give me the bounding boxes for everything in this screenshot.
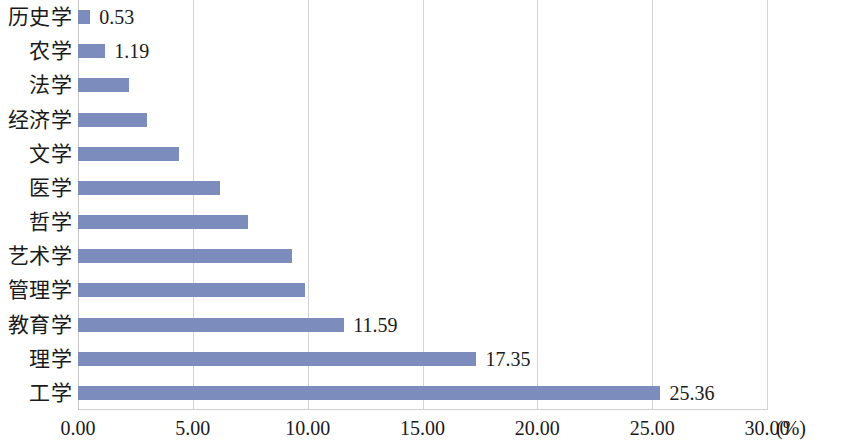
bar-value-label: 1.19 xyxy=(114,41,149,61)
bar-row: 历史学0.53 xyxy=(78,0,767,34)
category-label: 管理学 xyxy=(8,280,73,301)
bar-value-label: 0.53 xyxy=(99,7,134,27)
bar-row: 经济学 xyxy=(78,103,767,137)
bar-row: 农学1.19 xyxy=(78,34,767,68)
bar-row: 管理学 xyxy=(78,273,767,307)
x-tick-label: 5.00 xyxy=(175,418,210,438)
bar xyxy=(78,113,147,127)
category-label: 艺术学 xyxy=(8,246,73,267)
category-label: 经济学 xyxy=(8,109,73,130)
bar xyxy=(78,147,179,161)
category-label: 文学 xyxy=(29,143,72,164)
bar xyxy=(78,215,248,229)
bar: 17.35 xyxy=(78,352,476,366)
bar-value-label: 11.59 xyxy=(353,315,397,335)
category-label: 医学 xyxy=(29,177,72,198)
plot-area: 历史学0.53农学1.19法学经济学文学医学哲学艺术学管理学教育学11.59理学… xyxy=(78,0,767,410)
x-tick-label: 25.00 xyxy=(630,418,675,438)
bar-row: 教育学11.59 xyxy=(78,308,767,342)
x-axis-unit-label: (%) xyxy=(776,418,806,438)
bar: 25.36 xyxy=(78,386,660,400)
bar-row: 文学 xyxy=(78,137,767,171)
bar-value-label: 17.35 xyxy=(485,349,530,369)
x-tick-label: 0.00 xyxy=(61,418,96,438)
bar-row: 艺术学 xyxy=(78,239,767,273)
bar-value-label: 25.36 xyxy=(669,383,714,403)
category-label: 教育学 xyxy=(8,314,73,335)
bar-row: 理学17.35 xyxy=(78,342,767,376)
bar: 11.59 xyxy=(78,318,344,332)
x-tick-label: 20.00 xyxy=(515,418,560,438)
category-label: 历史学 xyxy=(8,7,73,28)
category-label: 农学 xyxy=(29,41,72,62)
category-label: 哲学 xyxy=(29,212,72,233)
bar-row: 工学25.36 xyxy=(78,376,767,410)
x-tick-label: 15.00 xyxy=(400,418,445,438)
bar-row: 法学 xyxy=(78,68,767,102)
bar: 0.53 xyxy=(78,10,90,24)
category-label: 工学 xyxy=(29,382,72,403)
category-label: 理学 xyxy=(29,348,72,369)
bar xyxy=(78,181,220,195)
bar: 1.19 xyxy=(78,44,105,58)
category-label: 法学 xyxy=(29,75,72,96)
bar xyxy=(78,78,129,92)
bar-row: 哲学 xyxy=(78,205,767,239)
x-axis-baseline xyxy=(78,409,768,410)
gridline-30.00 xyxy=(767,0,768,410)
bar-row: 医学 xyxy=(78,171,767,205)
bar-chart: 历史学0.53农学1.19法学经济学文学医学哲学艺术学管理学教育学11.59理学… xyxy=(0,0,845,444)
bar xyxy=(78,283,305,297)
bar xyxy=(78,249,292,263)
x-tick-label: 10.00 xyxy=(285,418,330,438)
